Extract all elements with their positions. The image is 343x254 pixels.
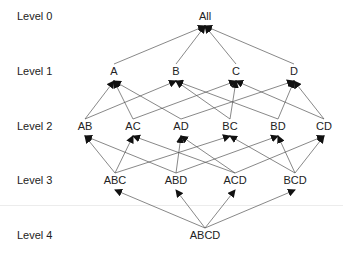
edge-abcd-to-abc xyxy=(115,190,205,228)
edge-abc-to-ab xyxy=(85,136,115,173)
node-all: All xyxy=(199,10,211,22)
node-ad: AD xyxy=(173,120,188,132)
edge-ad-to-d xyxy=(181,81,294,119)
node-d: D xyxy=(290,65,298,77)
edge-cd-to-d xyxy=(294,81,324,119)
node-abc: ABC xyxy=(104,174,127,186)
level-label-0: Level 0 xyxy=(17,10,52,22)
edge-abcd-to-abd xyxy=(176,190,205,228)
node-c: C xyxy=(232,65,240,77)
node-acd: ACD xyxy=(223,174,246,186)
node-a: A xyxy=(110,65,117,77)
edge-bcd-to-bd xyxy=(278,136,295,173)
node-abcd: ABCD xyxy=(190,229,221,241)
node-bc: BC xyxy=(222,120,237,132)
edge-layer xyxy=(85,26,324,228)
level-label-4: Level 4 xyxy=(17,229,52,241)
edge-cd-to-c xyxy=(236,81,324,119)
edge-bcd-to-cd xyxy=(295,136,324,173)
node-cd: CD xyxy=(316,120,332,132)
edge-acd-to-ac xyxy=(133,136,235,173)
node-ab: AB xyxy=(78,120,93,132)
edge-abd-to-ad xyxy=(176,136,181,173)
node-b: B xyxy=(172,65,179,77)
node-bcd: BCD xyxy=(283,174,306,186)
edge-abcd-to-bcd xyxy=(205,190,295,228)
edge-bc-to-c xyxy=(230,81,236,119)
edge-a-to-all xyxy=(114,26,205,64)
level-label-1: Level 1 xyxy=(17,65,52,77)
node-abd: ABD xyxy=(165,174,188,186)
node-bd: BD xyxy=(270,120,285,132)
edge-bd-to-b xyxy=(176,81,278,119)
node-ac: AC xyxy=(125,120,140,132)
level-label-3: Level 3 xyxy=(17,174,52,186)
level-label-2: Level 2 xyxy=(17,120,52,132)
edge-abc-to-bc xyxy=(115,136,230,173)
edge-d-to-all xyxy=(205,26,294,64)
edge-c-to-all xyxy=(205,26,236,64)
edge-abcd-to-acd xyxy=(205,190,235,228)
edge-acd-to-cd xyxy=(235,136,324,173)
